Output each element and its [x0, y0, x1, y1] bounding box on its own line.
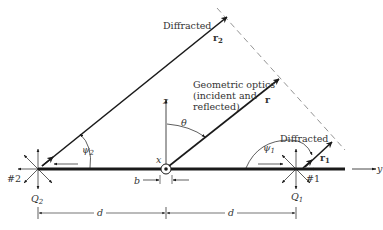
diffracted-right-label: Diffracted: [280, 133, 328, 144]
edge2-label: #2: [7, 173, 21, 184]
b-label: b: [134, 175, 140, 186]
psi2-label: ψ2: [82, 144, 94, 157]
origin-dot: [164, 167, 168, 171]
z-axis-label: z: [162, 95, 169, 106]
d-left-label: d: [97, 207, 103, 218]
geometric-optics-label-line2: (incident and: [193, 90, 257, 101]
ray-r2-start-arrow: [42, 157, 53, 166]
q1-label: Q1: [291, 191, 303, 204]
diagram-canvas: y z x Diffracted r2 Geometric optics (in…: [0, 0, 383, 230]
diffraction-diagram: y z x Diffracted r2 Geometric optics (in…: [0, 0, 383, 230]
x-axis-label: x: [156, 154, 162, 165]
r2-label: r2: [213, 32, 223, 45]
geometric-optics-label-line3: reflected): [193, 101, 240, 112]
y-axis-label: y: [376, 163, 383, 174]
q2-label: Q2: [31, 193, 44, 206]
edge1-label: #1: [306, 173, 320, 184]
r1-label: r1: [320, 152, 330, 165]
psi1-label: ψ1: [263, 142, 275, 155]
theta-label: θ: [181, 117, 187, 128]
diffracted-top-label: Diffracted: [163, 20, 211, 31]
ray-r1-start-arrow: [303, 160, 312, 168]
geometric-optics-label-line1: Geometric optics: [193, 79, 275, 90]
r-label: r: [265, 94, 271, 105]
d-right-label: d: [228, 207, 234, 218]
